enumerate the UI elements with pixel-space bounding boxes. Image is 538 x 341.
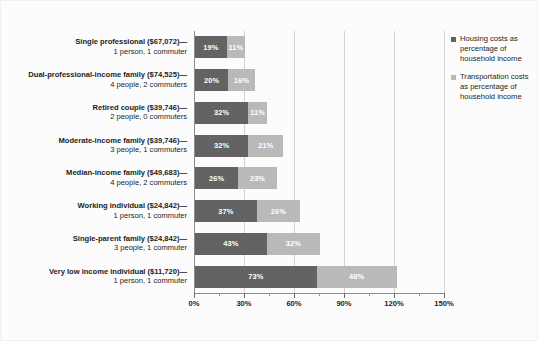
x-tick-minor <box>269 293 270 296</box>
x-tick-label: 150% <box>434 299 453 308</box>
category-label: Median-income family ($49,683)—4 people,… <box>9 168 187 187</box>
bar-segment-transportation: 21% <box>248 135 283 157</box>
x-tick-major <box>244 293 245 298</box>
category-label-line1: Single-parent family ($24,842)— <box>73 234 187 243</box>
gridline-90 <box>344 31 345 293</box>
category-label-line1: Working individual ($24,842)— <box>78 201 187 210</box>
bar-row: 26%23% <box>195 167 277 189</box>
bar-row: 32%11% <box>195 102 267 124</box>
chart-container: Single professional ($67,072)—1 person, … <box>0 0 538 341</box>
legend-entry: Transportation costs as percentage of ho… <box>451 72 535 101</box>
bar-row: 19%11% <box>195 36 245 58</box>
bar-value-transportation: 16% <box>234 76 249 85</box>
category-label: Single-parent family ($24,842)—3 people,… <box>9 234 187 253</box>
bar-value-housing: 19% <box>203 43 218 52</box>
bar-value-housing: 73% <box>248 272 263 281</box>
category-label: Very low income individual ($11,720)—1 p… <box>9 267 187 286</box>
category-label-line2: 3 people, 1 commuter <box>9 243 187 253</box>
bar-segment-housing: 26% <box>195 167 238 189</box>
category-label: Single professional ($67,072)—1 person, … <box>9 37 187 56</box>
category-label-line2: 1 person, 1 commuter <box>9 47 187 57</box>
bar-value-housing: 26% <box>209 174 224 183</box>
category-label-line2: 2 people, 0 commuters <box>9 112 187 122</box>
category-label-line2: 4 people, 2 commuters <box>9 80 187 90</box>
x-axis: 0%30%60%90%120%150% <box>194 293 445 315</box>
bar-value-transportation: 32% <box>286 239 301 248</box>
bar-value-housing: 32% <box>214 108 229 117</box>
category-label-line1: Median-income family ($49,683)— <box>66 168 187 177</box>
bar-row: 37%26% <box>195 200 300 222</box>
bar-segment-transportation: 48% <box>317 266 397 288</box>
bar-row: 73%48% <box>195 266 397 288</box>
bar-value-housing: 37% <box>218 207 233 216</box>
x-tick-major <box>344 293 345 298</box>
bar-value-transportation: 11% <box>228 43 243 52</box>
chart-legend: Housing costs as percentage of household… <box>451 34 535 111</box>
bar-segment-housing: 20% <box>195 69 228 91</box>
category-label-line1: Very low income individual ($11,720)— <box>49 267 187 276</box>
legend-entry: Housing costs as percentage of household… <box>451 34 535 63</box>
x-tick-minor <box>319 293 320 296</box>
bar-value-transportation: 23% <box>250 174 265 183</box>
gridline-150 <box>444 31 445 293</box>
bar-segment-housing: 32% <box>195 135 248 157</box>
x-tick-label: 120% <box>384 299 403 308</box>
category-label-line1: Dual-professional-income family ($74,525… <box>28 70 187 79</box>
bar-segment-housing: 19% <box>195 36 227 58</box>
bar-value-transportation: 26% <box>271 207 286 216</box>
bar-value-housing: 32% <box>214 141 229 150</box>
bar-segment-transportation: 32% <box>267 233 320 255</box>
bar-value-housing: 43% <box>223 239 238 248</box>
bar-row: 32%21% <box>195 135 283 157</box>
category-label-line2: 1 person, 1 commuter <box>9 211 187 221</box>
bar-segment-housing: 32% <box>195 102 248 124</box>
bar-segment-transportation: 26% <box>257 200 300 222</box>
x-tick-label: 90% <box>336 299 351 308</box>
category-label-line1: Moderate-income family ($39,746)— <box>59 136 187 145</box>
gridline-120 <box>394 31 395 293</box>
bar-segment-transportation: 16% <box>228 69 255 91</box>
x-tick-major <box>394 293 395 298</box>
bar-value-transportation: 21% <box>258 141 273 150</box>
bar-value-transportation: 48% <box>349 272 364 281</box>
x-tick-label: 60% <box>286 299 301 308</box>
category-label-line2: 1 person, 1 commuter <box>9 276 187 286</box>
legend-label: Transportation costs as percentage of ho… <box>460 72 535 101</box>
x-tick-major <box>194 293 195 298</box>
x-tick-major <box>444 293 445 298</box>
legend-swatch-icon <box>451 75 456 80</box>
bar-segment-housing: 37% <box>195 200 257 222</box>
legend-label: Housing costs as percentage of household… <box>460 34 535 63</box>
bar-row: 43%32% <box>195 233 320 255</box>
x-tick-minor <box>419 293 420 296</box>
bar-segment-housing: 73% <box>195 266 317 288</box>
plot-area: 19%11%20%16%32%11%32%21%26%23%37%26%43%3… <box>194 31 445 293</box>
x-tick-label: 0% <box>189 299 200 308</box>
category-label-line1: Single professional ($67,072)— <box>75 37 187 46</box>
category-label: Working individual ($24,842)—1 person, 1… <box>9 201 187 220</box>
category-label-line2: 3 people, 1 commuters <box>9 145 187 155</box>
x-tick-major <box>294 293 295 298</box>
category-label: Retired couple ($39,746)—2 people, 0 com… <box>9 103 187 122</box>
x-tick-minor <box>219 293 220 296</box>
bar-value-housing: 20% <box>204 76 219 85</box>
x-tick-label: 30% <box>236 299 251 308</box>
bar-value-transportation: 11% <box>250 108 265 117</box>
category-axis: Single professional ($67,072)—1 person, … <box>9 31 191 293</box>
bar-segment-transportation: 23% <box>238 167 276 189</box>
bar-row: 20%16% <box>195 69 255 91</box>
category-label: Moderate-income family ($39,746)—3 peopl… <box>9 136 187 155</box>
category-label-line1: Retired couple ($39,746)— <box>93 103 187 112</box>
category-label: Dual-professional-income family ($74,525… <box>9 70 187 89</box>
bar-segment-transportation: 11% <box>227 36 245 58</box>
bar-segment-transportation: 11% <box>248 102 266 124</box>
x-tick-minor <box>369 293 370 296</box>
category-label-line2: 4 people, 2 commuters <box>9 178 187 188</box>
legend-swatch-icon <box>451 37 456 42</box>
bar-segment-housing: 43% <box>195 233 267 255</box>
